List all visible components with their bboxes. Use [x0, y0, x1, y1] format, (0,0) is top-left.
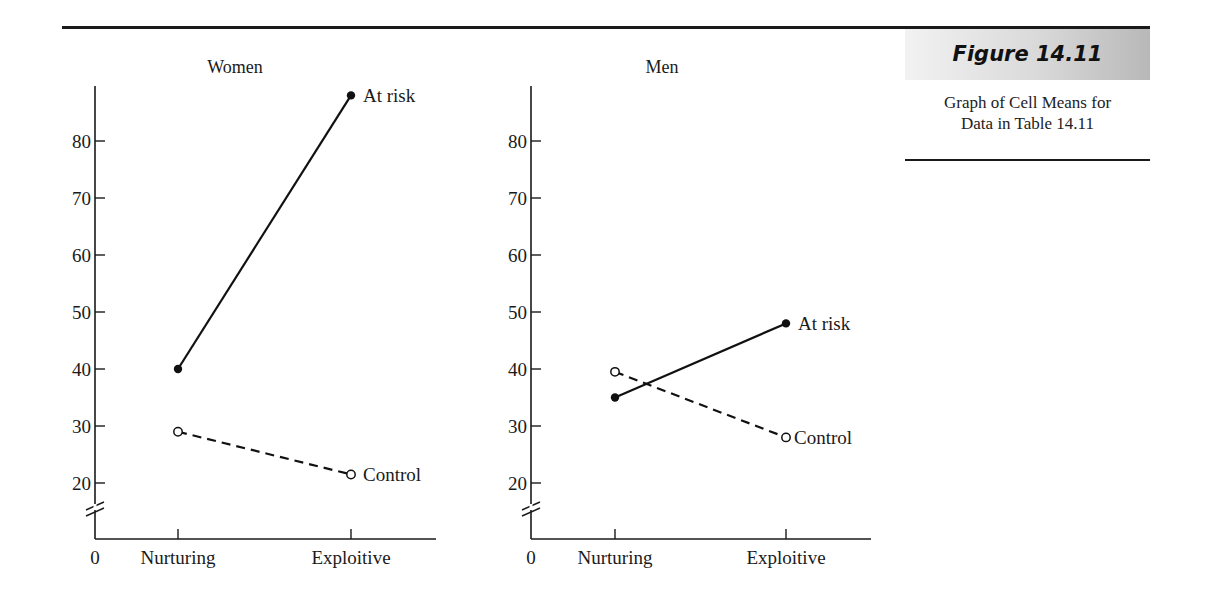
series-line-control: [178, 432, 351, 475]
series-label: Control: [363, 464, 421, 485]
x-tick-label: Exploitive: [746, 547, 825, 568]
y-tick-label: 40: [72, 359, 91, 380]
axis-break-gap: [530, 504, 533, 510]
caption-line-2: Data in Table 14.11: [905, 113, 1150, 134]
panel-title: Men: [646, 57, 679, 77]
filled-marker-icon: [611, 393, 619, 401]
series-line-at-risk: [178, 95, 351, 369]
x-tick-label: Nurturing: [141, 547, 216, 568]
caption-rule: [905, 159, 1150, 161]
filled-marker-icon: [174, 365, 182, 373]
y-tick-label: 30: [508, 416, 527, 437]
x-origin-label: 0: [90, 547, 100, 568]
y-tick-label: 60: [72, 245, 91, 266]
filled-marker-icon: [347, 91, 355, 99]
y-tick-label: 70: [508, 188, 527, 209]
figure-caption: Graph of Cell Means for Data in Table 14…: [905, 92, 1150, 134]
y-tick-label: 20: [72, 473, 91, 494]
women-panel: Women203040506070800NurturingExploitiveA…: [72, 57, 436, 568]
men-panel: Men203040506070800NurturingExploitiveAt …: [508, 57, 871, 568]
caption-line-1: Graph of Cell Means for: [905, 92, 1150, 113]
figure-label: Figure 14.11: [905, 29, 1150, 80]
filled-marker-icon: [782, 319, 790, 327]
x-tick-label: Nurturing: [578, 547, 653, 568]
series-line-control: [615, 372, 786, 438]
y-tick-label: 40: [508, 359, 527, 380]
axis-break-gap: [94, 504, 97, 510]
y-tick-label: 60: [508, 245, 527, 266]
open-marker-icon: [611, 368, 619, 376]
series-line-at-risk: [615, 323, 786, 397]
y-tick-label: 50: [508, 302, 527, 323]
open-marker-icon: [347, 470, 355, 478]
panel-title: Women: [207, 57, 263, 77]
y-tick-label: 80: [72, 131, 91, 152]
y-tick-label: 20: [508, 473, 527, 494]
y-tick-label: 30: [72, 416, 91, 437]
series-label: At risk: [798, 313, 851, 334]
y-tick-label: 50: [72, 302, 91, 323]
series-label: At risk: [363, 85, 416, 106]
figure-label-box: Figure 14.11: [905, 29, 1150, 80]
y-tick-label: 70: [72, 188, 91, 209]
open-marker-icon: [782, 433, 790, 441]
x-tick-label: Exploitive: [311, 547, 390, 568]
open-marker-icon: [174, 428, 182, 436]
y-tick-label: 80: [508, 131, 527, 152]
x-origin-label: 0: [526, 547, 536, 568]
series-label: Control: [794, 427, 852, 448]
